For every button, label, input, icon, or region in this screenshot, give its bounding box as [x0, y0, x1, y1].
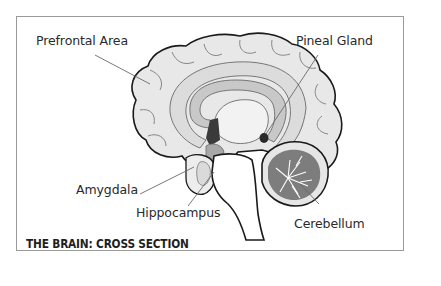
diagram-title: THE BRAIN: CROSS SECTION [26, 237, 189, 251]
label-prefrontal-area: Prefrontal Area [36, 33, 128, 48]
label-cerebellum: Cerebellum [294, 216, 365, 231]
hippocampus-shape [197, 162, 211, 186]
label-amygdala: Amygdala [76, 182, 138, 197]
cerebellum-cortex [268, 150, 320, 200]
label-pineal-gland: Pineal Gland [296, 33, 373, 48]
label-hippocampus: Hippocampus [136, 205, 220, 220]
pineal-gland-shape [260, 133, 269, 143]
brainstem [212, 154, 264, 240]
